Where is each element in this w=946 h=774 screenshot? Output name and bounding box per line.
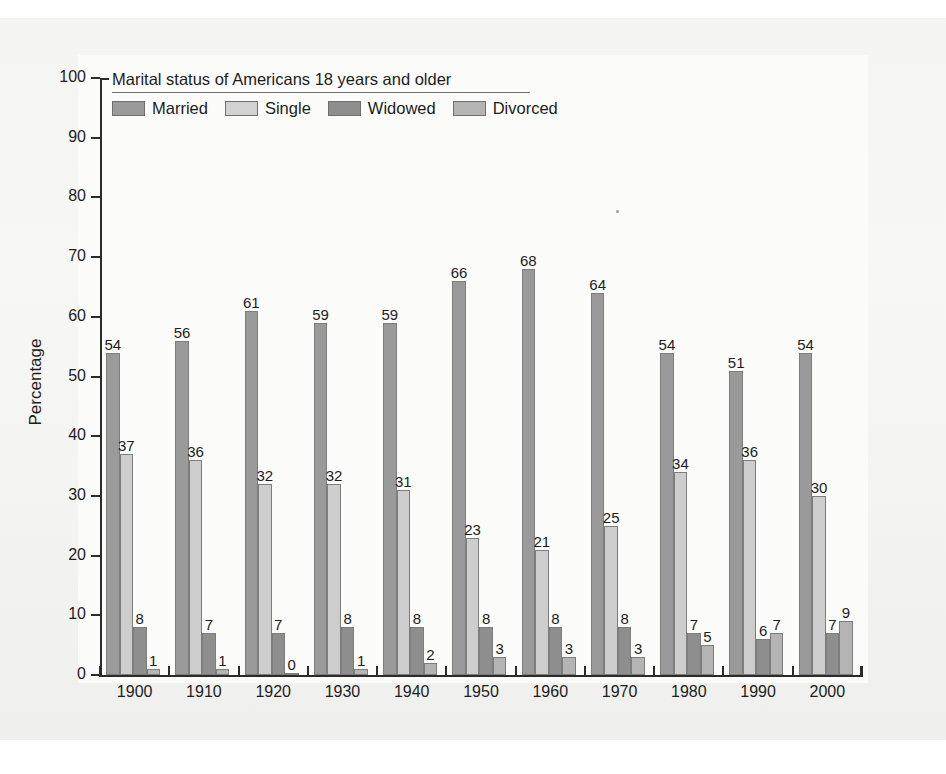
y-axis-tick-label: 40	[40, 427, 86, 443]
bar-married-1980[interactable]: 54	[660, 353, 674, 675]
bar-value-label: 54	[797, 337, 814, 352]
bar-value-label: 8	[413, 611, 421, 626]
bar-divorced-2000[interactable]: 9	[839, 621, 853, 675]
bar-divorced-1930[interactable]: 1	[354, 669, 368, 675]
bar-divorced-1960[interactable]: 3	[562, 657, 576, 675]
y-axis-tick-label-text: 10	[46, 606, 86, 622]
bar-group: 593182	[379, 78, 448, 675]
bar-single-1990[interactable]: 36	[743, 460, 757, 675]
y-axis-tick-label: 70	[40, 248, 86, 264]
bar-married-1970[interactable]: 64	[591, 293, 605, 675]
bar-value-label: 8	[551, 611, 559, 626]
bar-value-label: 7	[828, 617, 836, 632]
bar-value-label: 21	[534, 534, 551, 549]
bar-value-label: 23	[464, 522, 481, 537]
bar-married-1910[interactable]: 56	[175, 341, 189, 675]
bar-divorced-1990[interactable]: 7	[770, 633, 784, 675]
x-axis-tick-label: 1920	[238, 684, 308, 700]
bar-widowed-1920[interactable]: 7	[272, 633, 286, 675]
bar-divorced-1980[interactable]: 5	[701, 645, 715, 675]
bar-group: 642583	[587, 78, 656, 675]
bar-married-2000[interactable]: 54	[799, 353, 813, 675]
legend-swatch-icon	[112, 101, 145, 116]
bar-divorced-1950[interactable]: 3	[493, 657, 507, 675]
y-axis-tick	[91, 77, 100, 79]
bar-married-1920[interactable]: 61	[245, 311, 259, 675]
bar-divorced-1940[interactable]: 2	[424, 663, 438, 675]
bar-value-label: 51	[728, 355, 745, 370]
y-axis-tick	[91, 614, 100, 616]
bar-married-1960[interactable]: 68	[522, 269, 536, 675]
bar-value-label: 34	[672, 456, 689, 471]
bar-married-1930[interactable]: 59	[314, 323, 328, 675]
x-axis-tick-label: 1940	[377, 684, 447, 700]
bar-single-1920[interactable]: 32	[258, 484, 272, 675]
bar-widowed-1990[interactable]: 6	[756, 639, 770, 675]
bar-value-label: 8	[620, 611, 628, 626]
legend-item-label: Married	[152, 100, 208, 117]
x-axis-tick-label: 1970	[585, 684, 655, 700]
bar-married-1900[interactable]: 54	[106, 353, 120, 675]
bar-value-label: 7	[274, 617, 282, 632]
bar-value-label: 54	[659, 337, 676, 352]
y-axis-tick-label-text: 0	[46, 666, 86, 682]
bar-group: 543475	[656, 78, 725, 675]
bar-single-1930[interactable]: 32	[327, 484, 341, 675]
chart-legend: Marital status of Americans 18 years and…	[112, 70, 530, 116]
bar-widowed-1900[interactable]: 8	[133, 627, 147, 675]
bar-widowed-2000[interactable]: 7	[826, 633, 840, 675]
bar-single-1900[interactable]: 37	[120, 454, 134, 675]
y-axis-tick-label-text: 50	[46, 368, 86, 384]
bar-divorced-1970[interactable]: 3	[631, 657, 645, 675]
x-axis-tick-label: 1910	[169, 684, 239, 700]
legend-item-single[interactable]: Single	[225, 100, 311, 117]
legend-item-label: Single	[265, 100, 311, 117]
bar-single-2000[interactable]: 30	[812, 496, 826, 675]
bar-value-label: 3	[495, 641, 503, 656]
bar-single-1970[interactable]: 25	[604, 526, 618, 675]
bar-value-label: 32	[256, 468, 273, 483]
bar-widowed-1960[interactable]: 8	[549, 627, 563, 675]
bar-group: 662383	[448, 78, 517, 675]
legend-item-divorced[interactable]: Divorced	[453, 100, 558, 117]
bar-widowed-1970[interactable]: 8	[618, 627, 632, 675]
bar-widowed-1930[interactable]: 8	[341, 627, 355, 675]
legend-item-widowed[interactable]: Widowed	[328, 100, 436, 117]
legend-swatch-icon	[453, 101, 486, 116]
bar-widowed-1980[interactable]: 7	[687, 633, 701, 675]
bar-widowed-1950[interactable]: 8	[479, 627, 493, 675]
bar-widowed-1910[interactable]: 7	[202, 633, 216, 675]
bar-value-label: 0	[288, 657, 296, 672]
legend-item-married[interactable]: Married	[112, 100, 208, 117]
bar-married-1990[interactable]: 51	[729, 371, 743, 675]
y-axis-tick-label-text: 20	[46, 547, 86, 563]
legend-item-label: Divorced	[493, 100, 558, 117]
y-axis-tick	[91, 137, 100, 139]
bar-divorced-1920[interactable]: 0	[285, 673, 299, 675]
scan-artifact-speck	[616, 210, 619, 213]
bar-single-1950[interactable]: 23	[466, 538, 480, 675]
bar-value-label: 6	[759, 623, 767, 638]
bars-layer: 5437815636716132705932815931826623836821…	[102, 78, 862, 675]
bar-value-label: 1	[149, 653, 157, 668]
bar-single-1980[interactable]: 34	[674, 472, 688, 675]
bar-married-1950[interactable]: 66	[452, 281, 466, 675]
bar-married-1940[interactable]: 59	[383, 323, 397, 675]
bar-value-label: 3	[634, 641, 642, 656]
legend-title: Marital status of Americans 18 years and…	[112, 70, 530, 92]
bar-single-1940[interactable]: 31	[397, 490, 411, 675]
bar-single-1910[interactable]: 36	[189, 460, 203, 675]
bar-value-label: 68	[520, 253, 537, 268]
x-axis-tick-label: 1930	[307, 684, 377, 700]
bar-single-1960[interactable]: 21	[535, 550, 549, 675]
y-axis-tick	[91, 316, 100, 318]
y-axis-tick-label: 60	[40, 308, 86, 324]
bar-widowed-1940[interactable]: 8	[410, 627, 424, 675]
bar-value-label: 36	[187, 444, 204, 459]
y-axis-tick-label-text: 100	[46, 69, 86, 85]
y-axis-tick-label: 100	[40, 69, 86, 85]
x-axis-tick-label: 1960	[515, 684, 585, 700]
bar-value-label: 7	[773, 617, 781, 632]
bar-divorced-1910[interactable]: 1	[216, 669, 230, 675]
bar-divorced-1900[interactable]: 1	[147, 669, 161, 675]
